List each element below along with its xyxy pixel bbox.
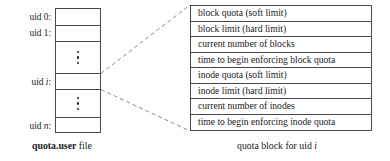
uid-ellipsis-row-upper <box>56 42 100 74</box>
uid-label-1-colon: : <box>48 28 51 38</box>
ellipsis-dot <box>77 62 80 65</box>
right-caption-prefix: quota block for uid <box>237 140 314 151</box>
quota-field-label: current number of blocks <box>198 39 295 49</box>
quota-field-label: block limit (hard limit) <box>198 24 286 34</box>
uid-label-n-colon: : <box>48 121 51 131</box>
quota-field-row: time to begin enforcing inode quota <box>191 115 371 131</box>
uid-entry-row-1 <box>56 26 100 42</box>
ellipsis-dot <box>77 97 80 100</box>
left-table-caption: quota.user file <box>32 141 92 151</box>
uid-label-i-colon: : <box>48 77 51 87</box>
quota-field-label: time to begin enforcing block quota <box>198 55 335 65</box>
ellipsis-dot <box>77 51 80 54</box>
quota-field-row: inode limit (hard limit) <box>191 84 371 100</box>
uid-label-i-text: uid <box>32 77 46 87</box>
uid-label-i: uid i: <box>32 78 51 87</box>
left-caption-filename: quota.user <box>32 140 76 151</box>
quota-field-label: inode limit (hard limit) <box>198 86 286 96</box>
diagram-canvas: uid 0: uid 1: uid i: uid n: <box>0 0 390 161</box>
quota-field-label: time to begin enforcing inode quota <box>198 117 335 127</box>
uid-label-1-text: uid <box>30 28 44 38</box>
left-caption-suffix: file <box>76 140 92 151</box>
uid-entry-row-i <box>56 74 100 90</box>
quota-field-row: inode quota (soft limit) <box>191 68 371 84</box>
quota-field-row: block quota (soft limit) <box>191 6 371 22</box>
ellipsis-dot <box>77 56 80 59</box>
ellipsis-dot <box>77 102 80 105</box>
connector-line-top <box>101 5 190 73</box>
uid-label-0-colon: : <box>48 12 51 22</box>
uid-label-column: uid 0: uid 1: uid i: uid n: <box>0 0 51 140</box>
uid-label-1: uid 1: <box>30 29 51 38</box>
right-caption-index: i <box>314 140 317 151</box>
quota-user-file-table <box>55 8 101 133</box>
connector-line-bottom <box>101 90 190 131</box>
ellipsis-dot <box>77 108 80 111</box>
uid-label-n: uid n: <box>30 122 51 131</box>
uid-entry-row-n <box>56 118 100 132</box>
uid-label-n-text: uid <box>30 121 44 131</box>
right-table-caption: quota block for uid i <box>237 141 317 151</box>
uid-label-0-text: uid <box>30 12 44 22</box>
vertical-ellipsis-icon-upper <box>56 42 100 73</box>
quota-field-row: current number of inodes <box>191 99 371 115</box>
uid-ellipsis-row-lower <box>56 90 100 118</box>
quota-field-label: inode quota (soft limit) <box>198 70 287 80</box>
quota-field-row: time to begin enforcing block quota <box>191 53 371 69</box>
quota-field-row: current number of blocks <box>191 37 371 53</box>
quota-field-label: current number of inodes <box>198 101 295 111</box>
quota-block-table: block quota (soft limit) block limit (ha… <box>190 5 372 131</box>
quota-field-label: block quota (soft limit) <box>198 8 287 18</box>
quota-field-row: block limit (hard limit) <box>191 22 371 38</box>
uid-label-0: uid 0: <box>30 13 51 22</box>
vertical-ellipsis-icon-lower <box>56 90 100 117</box>
uid-entry-row-0 <box>56 9 100 26</box>
